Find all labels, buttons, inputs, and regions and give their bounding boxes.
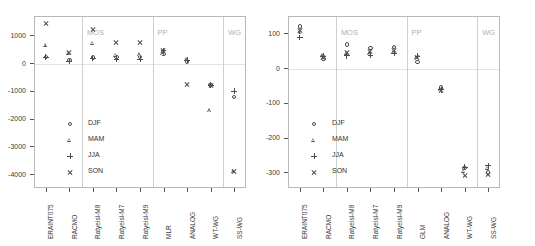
legend-label: DJF (332, 119, 345, 126)
son-marker-icon (296, 27, 304, 35)
group-header-pp: PP (158, 29, 168, 37)
x-tick-mark (465, 188, 466, 192)
legend-symbol (66, 136, 74, 144)
x-tick-mark (234, 188, 235, 192)
y-tick-mark (30, 146, 34, 147)
y-tick-label: 0 (248, 65, 280, 72)
group-header-wg: WG (482, 29, 495, 37)
x-axis-label-glm: GLM (420, 225, 427, 239)
legend-label: SON (88, 167, 103, 174)
y-tick-label: 1000 (0, 32, 26, 39)
group-separator-2 (477, 17, 478, 187)
x-tick-mark (116, 188, 117, 192)
x-axis-label-wt-wg: WT-WG (467, 216, 474, 239)
group-separator-1 (153, 17, 154, 187)
y-tick-label: -100 (248, 99, 280, 106)
son-marker-icon (183, 80, 191, 88)
y-tick-mark (30, 35, 34, 36)
djf-marker-icon (232, 95, 236, 99)
y-tick-label: -4000 (0, 171, 26, 178)
mam-legend-marker-icon (311, 138, 315, 142)
legend-symbol (66, 168, 74, 176)
x-axis-label-ratyeisl-m8: Ratyeisl-M8 (349, 205, 356, 239)
x-tick-mark (187, 188, 188, 192)
jja-marker-icon (461, 163, 469, 171)
x-axis-label-ratyeisl-m8: Ratyeisl-M8 (95, 205, 102, 239)
x-axis-label-ratyeisl-m9: Ratyeisl-M9 (397, 205, 404, 239)
group-separator-1 (407, 17, 408, 187)
figure-root: MOSPPWG10000-1000-2000-3000-4000ERAINT07… (0, 0, 535, 246)
x-axis-label-analog: ANALOG (444, 212, 451, 239)
jja-marker-icon (112, 55, 120, 63)
legend-symbol (310, 168, 318, 176)
y-tick-label: 100 (248, 30, 280, 37)
legend-symbol (310, 152, 318, 160)
y-tick-mark (284, 68, 288, 69)
x-tick-mark (211, 188, 212, 192)
y-tick-mark (30, 174, 34, 175)
son-marker-icon (484, 170, 492, 178)
mam-marker-icon (208, 108, 212, 112)
legend-label: SON (332, 167, 347, 174)
legend-label: MAM (332, 135, 348, 142)
legend-symbol (66, 152, 74, 160)
jja-marker-icon (296, 34, 304, 42)
x-tick-mark (418, 188, 419, 192)
x-tick-mark (300, 188, 301, 192)
x-tick-mark (370, 188, 371, 192)
legend-label: DJF (88, 119, 101, 126)
son-marker-icon (390, 47, 398, 55)
son-marker-icon (112, 38, 120, 46)
son-legend-marker-icon (66, 168, 74, 176)
y-tick-mark (284, 172, 288, 173)
son-marker-icon (136, 39, 144, 47)
son-marker-icon (89, 26, 97, 34)
x-axis-label-wt-wg: WT-WG (213, 216, 220, 239)
x-axis-label-ss-wg: SS-WG (237, 217, 244, 239)
x-tick-mark (164, 188, 165, 192)
jja-marker-icon (136, 55, 144, 63)
x-axis-label-racmo: RACMO (326, 215, 333, 239)
djf-legend-marker-icon (68, 122, 72, 126)
x-tick-mark (140, 188, 141, 192)
djf-legend-marker-icon (312, 122, 316, 126)
jja-marker-icon (42, 53, 50, 61)
jja-marker-icon (65, 57, 73, 65)
x-tick-mark (69, 188, 70, 192)
y-tick-mark (30, 119, 34, 120)
x-axis-label-ratyeisl-m9: Ratyeisl-M9 (143, 205, 150, 239)
group-header-pp: PP (412, 29, 422, 37)
x-axis-label-eraint075: ERAINT075 (302, 204, 309, 239)
y-tick-mark (30, 63, 34, 64)
group-header-mos: MOS (341, 29, 358, 37)
x-axis-label-analog: ANALOG (190, 212, 197, 239)
son-marker-icon (319, 53, 327, 61)
legend-symbol (66, 120, 74, 128)
x-axis-label-eraint075: ERAINT075 (48, 204, 55, 239)
x-tick-mark (323, 188, 324, 192)
y-tick-label: 0 (0, 60, 26, 67)
son-marker-icon (461, 171, 469, 179)
jja-legend-marker-icon (310, 152, 318, 160)
legend-symbol (310, 120, 318, 128)
group-separator-0 (82, 17, 83, 187)
group-separator-0 (336, 17, 337, 187)
son-marker-icon (160, 46, 168, 54)
y-tick-label: -3000 (0, 143, 26, 150)
jja-marker-icon (183, 56, 191, 64)
son-marker-icon (65, 49, 73, 57)
son-marker-icon (42, 19, 50, 27)
son-marker-icon (343, 48, 351, 56)
legend-label: MAM (88, 135, 104, 142)
son-marker-icon (437, 86, 445, 94)
x-tick-mark (347, 188, 348, 192)
djf-marker-icon (345, 42, 349, 46)
legend-label: JJA (332, 151, 344, 158)
y-tick-mark (30, 91, 34, 92)
legend-label: JJA (88, 151, 100, 158)
x-tick-mark (441, 188, 442, 192)
y-tick-mark (284, 33, 288, 34)
son-legend-marker-icon (310, 168, 318, 176)
legend-symbol (310, 136, 318, 144)
son-marker-icon (366, 47, 374, 55)
